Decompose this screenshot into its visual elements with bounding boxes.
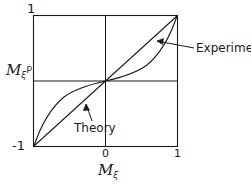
figure-canvas: 1 -1 0 1 Mξp Mξ Experiments Theory	[0, 0, 251, 188]
x-axis-tick-zero: 0	[102, 148, 109, 159]
y-axis-tick-bottom: -1	[12, 139, 25, 152]
theory-arrowhead-icon	[83, 104, 89, 111]
y-axis-title-superscript: p	[26, 63, 32, 73]
theory-annotation-label: Theory	[74, 122, 116, 134]
x-axis-title: Mξ	[98, 163, 118, 180]
y-axis-tick-top: 1	[27, 2, 35, 15]
experiments-arrowhead-icon	[157, 39, 164, 45]
x-axis-tick-right: 1	[174, 148, 181, 159]
y-axis-title: Mξp	[6, 63, 32, 80]
experiments-annotation-label: Experiments	[196, 42, 251, 54]
y-axis-title-base: M	[6, 61, 21, 79]
x-axis-title-subscript: ξ	[113, 170, 118, 180]
x-axis-title-base: M	[98, 161, 113, 179]
plot-svg	[0, 0, 251, 188]
